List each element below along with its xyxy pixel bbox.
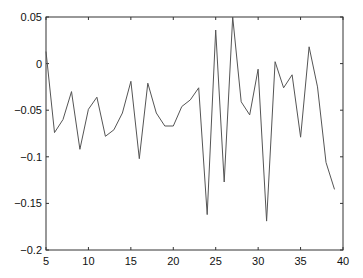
y-axis: 0.050−0.05−0.1−0.15−0.2 bbox=[14, 11, 343, 256]
plot-frame bbox=[46, 17, 343, 250]
y-tick-label: −0.2 bbox=[20, 244, 42, 256]
plot-area bbox=[46, 17, 343, 250]
y-tick-label: −0.05 bbox=[14, 104, 42, 116]
x-tick-label: 10 bbox=[82, 255, 94, 267]
x-axis: 510152025303540 bbox=[43, 17, 349, 267]
y-tick-label: −0.1 bbox=[20, 151, 42, 163]
y-tick-label: 0 bbox=[36, 58, 42, 70]
data-series-line bbox=[46, 17, 335, 221]
x-tick-label: 20 bbox=[167, 255, 179, 267]
y-tick-label: 0.05 bbox=[21, 11, 42, 23]
x-tick-label: 15 bbox=[125, 255, 137, 267]
x-tick-label: 40 bbox=[337, 255, 349, 267]
y-tick-label: −0.15 bbox=[14, 197, 42, 209]
x-tick-label: 35 bbox=[294, 255, 306, 267]
line-chart: 510152025303540 0.050−0.05−0.1−0.15−0.2 bbox=[0, 0, 363, 278]
x-tick-label: 5 bbox=[43, 255, 49, 267]
x-tick-label: 25 bbox=[210, 255, 222, 267]
x-tick-label: 30 bbox=[252, 255, 264, 267]
